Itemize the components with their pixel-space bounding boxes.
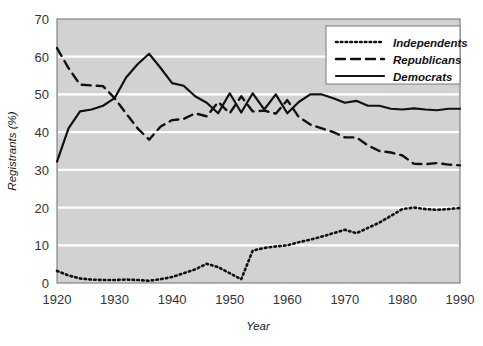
legend-label-independents: Independents bbox=[393, 37, 468, 49]
x-tick-1930: 1930 bbox=[100, 292, 129, 307]
y-tick-40: 40 bbox=[35, 125, 49, 140]
x-tick-1970: 1970 bbox=[330, 292, 359, 307]
x-tick-1960: 1960 bbox=[273, 292, 302, 307]
x-tick-1990: 1990 bbox=[446, 292, 475, 307]
x-tick-1950: 1950 bbox=[215, 292, 244, 307]
y-tick-10: 10 bbox=[35, 238, 49, 253]
x-tick-1940: 1940 bbox=[158, 292, 187, 307]
y-tick-60: 60 bbox=[35, 50, 49, 65]
y-axis-title: Registrants (%) bbox=[6, 111, 18, 190]
y-tick-50: 50 bbox=[35, 87, 49, 102]
x-tick-1920: 1920 bbox=[43, 292, 72, 307]
x-axis-title: Year bbox=[246, 320, 271, 332]
legend-label-republicans: Republicans bbox=[393, 54, 461, 66]
y-tick-20: 20 bbox=[35, 201, 49, 216]
y-tick-70: 70 bbox=[35, 12, 49, 27]
legend-label-democrats: Democrats bbox=[393, 71, 452, 83]
registrants-line-chart: 010203040506070 192019301940195019601970… bbox=[0, 0, 483, 346]
y-tick-30: 30 bbox=[35, 163, 49, 178]
y-tick-0: 0 bbox=[42, 276, 49, 291]
x-tick-1980: 1980 bbox=[388, 292, 417, 307]
legend: IndependentsRepublicansDemocrats bbox=[326, 26, 468, 84]
